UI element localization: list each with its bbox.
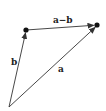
label-a-minus-b: a−b xyxy=(53,16,73,25)
vector-a-arrow xyxy=(9,28,95,108)
point-a-dot xyxy=(94,22,99,27)
vector-diagram: a−b b a xyxy=(0,0,106,111)
label-a: a xyxy=(58,65,64,74)
vector-a-minus-b-arrow xyxy=(26,25,94,30)
label-b: b xyxy=(11,58,17,67)
point-b-dot xyxy=(23,27,28,32)
vector-b-arrow xyxy=(9,33,26,107)
